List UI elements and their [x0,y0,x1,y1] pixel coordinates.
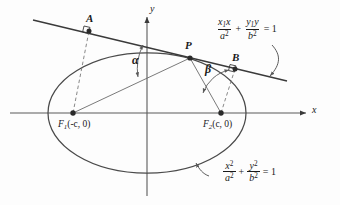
ellipse-equals: = 1 [263,166,276,177]
ellipse-den1-exp: 2 [230,172,234,180]
point-p-dot [187,55,192,60]
focus-f2-coords: (c, 0) [212,119,232,129]
focus-f1-dot [70,110,75,115]
ellipse-frac-1: x2 a2 [223,160,236,183]
tangent-line-equation: x1x a2 + y1y b2 = 1 [215,16,279,41]
segment-f2-b-dashed [221,69,235,113]
angle-label-alpha: α [132,54,139,66]
ellipse-plus-sign: + [239,166,245,177]
tangent-frac-2: y1y b2 [244,16,261,41]
tangent-den-1: a2 [218,29,231,41]
ellipse-num-1: x2 [223,160,235,171]
ellipse-den-2: b2 [247,171,260,183]
x-axis-label: x [312,105,316,115]
tangent-plus-sign: + [236,23,242,34]
tangent-num1-tail: x [226,16,230,27]
tangent-equals: = 1 [264,23,277,34]
ellipse-frac-2: y2 b2 [247,160,260,183]
tangent-den1-exp: 2 [225,30,229,38]
ellipse-equation: x2 a2 + y2 b2 = 1 [222,160,278,183]
point-a-dot [87,29,92,34]
tangent-frac-1: x1x a2 [216,16,233,41]
ellipse-num1-exp: 2 [230,160,234,168]
ellipse-den-1: a2 [223,171,236,183]
tangent-den2-exp: 2 [253,30,257,38]
tangent-num2-tail: y [254,16,258,27]
angle-label-beta: β [205,63,211,75]
ellipse-num2-exp: 2 [254,160,258,168]
ellipse-num-2: y2 [248,160,260,171]
tangent-num-2: y1y [244,16,261,29]
point-label-p: P [185,40,192,51]
ellipse-den2-exp: 2 [254,172,258,180]
tangent-num-1: x1x [216,16,233,29]
figure-canvas [0,0,340,205]
leader-tangent-equation [270,45,279,76]
point-label-a: A [86,13,93,24]
y-axis-label: y [150,4,154,14]
focus-label-f1: F1(-c, 0) [58,120,90,130]
focus-f2-dot [218,110,223,115]
ellipse-tangent-figure: x y A P B F1(-c, 0) F2(c, 0) α β x1x a2 … [0,0,340,205]
tangent-den-2: b2 [246,29,259,41]
focus-f1-coords: (-c, 0) [67,119,90,129]
focus-label-f2: F2(c, 0) [203,120,232,130]
point-label-b: B [232,52,239,63]
point-b-dot [233,67,238,72]
right-angle-markers [83,26,236,72]
